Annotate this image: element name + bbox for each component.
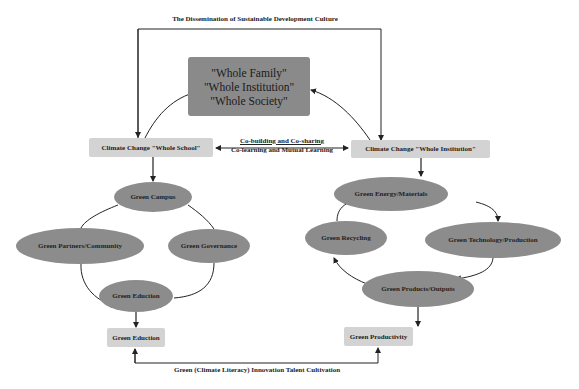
whole-society-box: "Whole Family" "Whole Institution" "Whol…: [188, 57, 310, 116]
green-productivity-output: Green Productivity: [344, 327, 413, 346]
green-campus-node: Green Campus: [114, 182, 192, 212]
green-energy-node: Green Energy/Materials: [334, 177, 448, 211]
co-building-label: Co-building and Co-sharing Co-learning a…: [218, 137, 346, 155]
green-eduction-node: Green Eduction: [99, 280, 173, 312]
green-recycling-node: Green Recycling: [305, 221, 387, 255]
center-line-2: "Whole Institution": [188, 80, 310, 94]
bottom-caption: Green (Climate Literacy) Innovation Tale…: [140, 366, 374, 374]
center-line-1: "Whole Family": [188, 66, 310, 80]
green-governance-node: Green Governance: [168, 229, 250, 263]
green-products-node: Green Products/Outputs: [362, 271, 474, 307]
whole-school-box: Climate Change "Whole School": [89, 138, 213, 157]
green-technology-node: Green Technology/Production: [425, 222, 561, 258]
co-learning-text: Co-learning and Mutual Learning: [218, 146, 346, 155]
whole-institution-box: Climate Change "Whole Institution": [351, 140, 490, 158]
center-line-3: "Whole Society": [188, 94, 310, 108]
top-caption: The Dissemination of Sustainable Develop…: [130, 15, 380, 23]
green-partners-node: Green Partners/Community: [16, 228, 144, 264]
co-building-text: Co-building and Co-sharing: [218, 137, 346, 146]
green-eduction-output: Green Eduction: [107, 328, 165, 347]
